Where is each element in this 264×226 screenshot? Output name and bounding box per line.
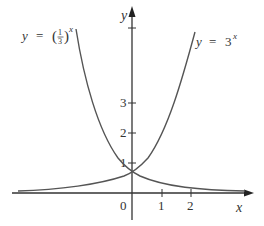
x-tick-label-1: 1	[158, 198, 165, 213]
x-axis-label: x	[235, 200, 243, 215]
label-exponent-left: x	[68, 24, 73, 34]
x-axis-arrow-icon	[244, 190, 254, 197]
plot-area: 0 1 2 1 2 3 x y y = ( 1 3 ) x y = 3 x	[0, 0, 264, 226]
y-axis-label: y	[119, 8, 128, 23]
label-y-right: y	[194, 34, 202, 49]
label-frac-den: 3	[58, 37, 62, 46]
label-base-3: 3	[225, 34, 232, 49]
y-tick-label-3: 3	[120, 95, 127, 110]
curve-one-third-power-x	[76, 29, 245, 191]
label-exponent-right: x	[232, 31, 237, 41]
y-tick-label-2: 2	[120, 125, 127, 140]
x-tick-label-0: 0	[120, 198, 127, 213]
x-tick-label-2: 2	[187, 198, 194, 213]
y-axis-arrow-icon	[129, 6, 136, 17]
curve-three-power-x	[18, 32, 195, 191]
label-one-third-power-x: y = ( 1 3 ) x	[20, 24, 73, 46]
label-three-power-x: y = 3 x	[194, 31, 237, 49]
exponential-graph: 0 1 2 1 2 3 x y y = ( 1 3 ) x y = 3 x	[0, 0, 264, 226]
label-frac-num: 1	[58, 28, 62, 37]
label-eq-right: =	[209, 34, 216, 49]
label-paren-open: (	[52, 28, 57, 45]
label-eq-left: =	[36, 28, 43, 43]
label-y-left: y	[20, 28, 28, 43]
